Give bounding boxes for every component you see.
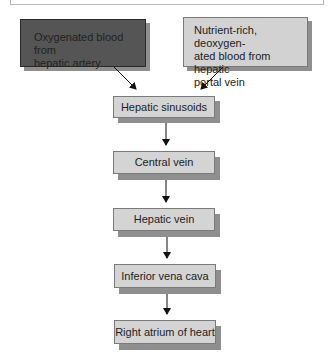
arrow-portal-to-sinusoids [201, 67, 223, 89]
flow-arrows [0, 0, 332, 353]
arrow-artery-to-sinusoids [114, 67, 136, 89]
